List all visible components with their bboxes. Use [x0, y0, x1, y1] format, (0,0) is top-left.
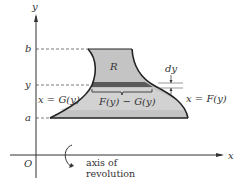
x-axis-label: x [228, 150, 234, 161]
tick-b: b [25, 43, 31, 54]
diagram-canvas: y x O b y a R x = G(y) x = F(y) F(y) − G… [0, 0, 241, 187]
x-axis-arrowhead [216, 153, 224, 157]
tick-y: y [24, 79, 31, 90]
axis-of-revolution-label-1: axis of [86, 157, 119, 168]
axis-of-revolution-label-2: revolution [86, 168, 135, 179]
left-curve-label: x = G(y) [38, 94, 80, 105]
right-curve-label: x = F(y) [186, 93, 227, 104]
y-axis-arrowhead [34, 14, 38, 22]
dy-arrowhead-bottom [170, 88, 173, 91]
tick-a: a [25, 112, 31, 123]
strip-width-label: F(y) − G(y) [98, 96, 156, 107]
strip [91, 82, 153, 87]
y-axis-label: y [31, 1, 38, 12]
dy-arrowhead-top [170, 80, 173, 83]
origin-label: O [24, 158, 32, 169]
region-label: R [109, 61, 118, 72]
strip-height-label: dy [165, 63, 177, 74]
